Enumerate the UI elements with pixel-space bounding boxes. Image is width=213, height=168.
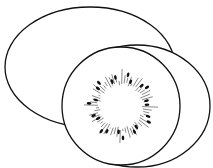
kiwi-slice-flesh (62, 47, 180, 165)
kiwi-icon (0, 0, 213, 168)
kiwi-illustration: Kiwi fruit line drawing (0, 0, 213, 168)
